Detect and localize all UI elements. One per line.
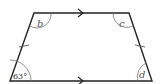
trapezium-outline xyxy=(10,13,152,81)
angle-label-top-right: c xyxy=(119,18,125,29)
equal-tick-left-icon xyxy=(19,45,29,47)
angle-label-bottom-right: d xyxy=(139,69,145,80)
angle-label-bottom-left: 63° xyxy=(13,72,27,81)
trapezium-diagram: 63° b c d xyxy=(0,0,161,84)
angle-label-top-left: b xyxy=(37,18,43,29)
